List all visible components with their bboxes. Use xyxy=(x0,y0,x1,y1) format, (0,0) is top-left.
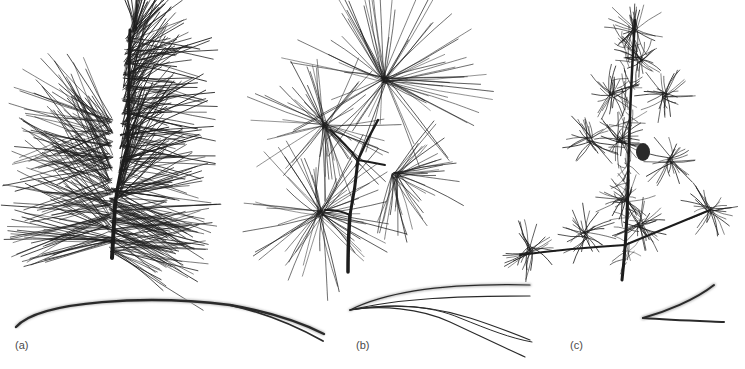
panel-label-a: (a) xyxy=(15,339,28,351)
fascicle-c-illustration xyxy=(643,285,724,322)
fascicle-a-illustration xyxy=(16,300,324,341)
panel-label-c: (c) xyxy=(570,339,583,351)
branch-b-illustration xyxy=(243,0,493,300)
panel-label-b: (b) xyxy=(356,339,369,351)
branch-c-illustration xyxy=(503,4,738,282)
branch-a-illustration xyxy=(1,0,221,310)
fascicle-b-illustration xyxy=(350,285,532,357)
pine-needle-figure xyxy=(0,0,745,369)
